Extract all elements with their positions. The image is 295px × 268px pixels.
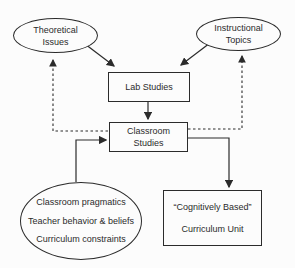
node-instructional-topics: Instructional Topics bbox=[196, 17, 281, 51]
node-label: Classroom pragmatics bbox=[36, 197, 126, 208]
node-lab-studies: Lab Studies bbox=[108, 72, 190, 102]
node-label: Theoretical bbox=[33, 24, 78, 36]
dashed-arrow-classroom-to-instructional bbox=[188, 56, 242, 129]
node-label: “Cognitively Based” bbox=[173, 201, 251, 213]
arrow-theoretical-to-lab bbox=[85, 44, 114, 66]
node-classroom-factors: Classroom pragmatics Teacher behavior & … bbox=[20, 182, 142, 260]
node-label: Studies bbox=[133, 137, 163, 149]
node-label: Topics bbox=[226, 34, 252, 46]
arrow-classroom-to-curriculum bbox=[188, 138, 229, 187]
node-label: Classroom bbox=[127, 125, 170, 137]
node-cognitively-based-curriculum-unit: “Cognitively Based” Curriculum Unit bbox=[163, 190, 262, 246]
arrow-instructional-to-lab bbox=[181, 43, 210, 65]
node-label: Issues bbox=[42, 36, 68, 48]
node-label: Teacher behavior & beliefs bbox=[28, 216, 134, 227]
node-label: Instructional bbox=[214, 22, 263, 34]
node-classroom-studies: Classroom Studies bbox=[109, 122, 188, 152]
node-theoretical-issues: Theoretical Issues bbox=[13, 18, 98, 53]
node-label: Curriculum Unit bbox=[181, 223, 243, 235]
diagram-canvas: Theoretical Issues Instructional Topics … bbox=[0, 0, 295, 268]
dashed-arrow-classroom-to-theoretical bbox=[53, 60, 108, 131]
node-label: Lab Studies bbox=[125, 81, 173, 93]
node-label: Curriculum constraints bbox=[36, 234, 126, 245]
arrow-factors-to-classroom bbox=[76, 140, 106, 182]
